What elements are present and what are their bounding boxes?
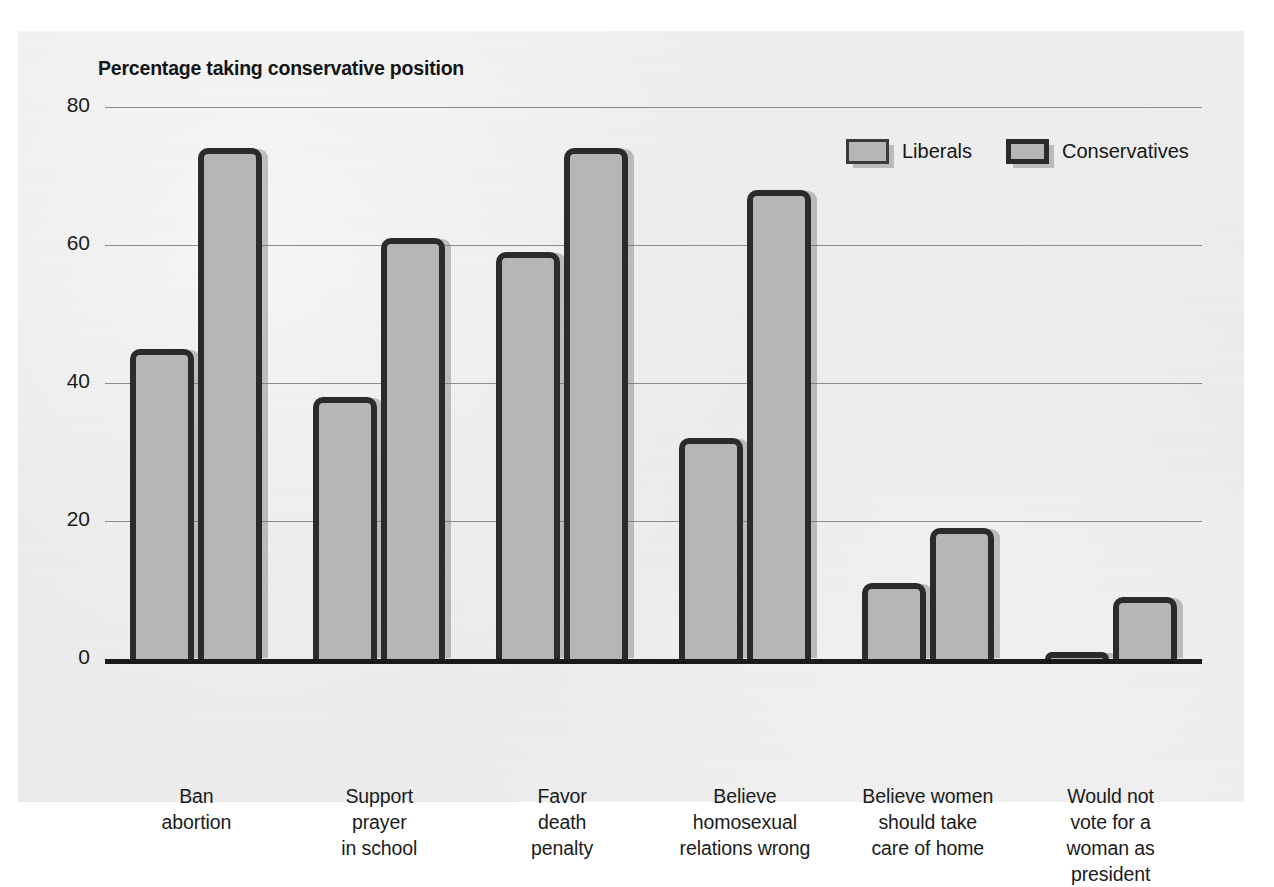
bar-group — [313, 107, 445, 659]
chart-title: Percentage taking conservative position — [98, 57, 464, 80]
x-axis-label: Favordeathpenalty — [457, 783, 668, 861]
x-axis-label-line: Favor — [457, 783, 668, 809]
plot-area: 020406080 BanabortionSupportprayerin sch… — [105, 107, 1202, 659]
bar-liberals[interactable] — [313, 397, 377, 659]
y-tick-label-20: 20 — [30, 507, 90, 531]
x-axis-label-line: Believe women — [822, 783, 1033, 809]
x-axis-label-line: Ban — [91, 783, 302, 809]
bar-group — [130, 107, 262, 659]
x-axis-label-line: prayer — [274, 809, 485, 835]
x-axis-label-line: Support — [274, 783, 485, 809]
bar-liberals[interactable] — [1045, 652, 1109, 659]
x-axis-label: Supportprayerin school — [274, 783, 485, 861]
bar-group — [679, 107, 811, 659]
bar-group — [862, 107, 994, 659]
bar-conservatives[interactable] — [930, 528, 994, 659]
x-axis-label-line: homosexual — [640, 809, 851, 835]
x-axis-label-line: Would not — [1005, 783, 1216, 809]
x-axis-label-line: should take — [822, 809, 1033, 835]
bar-conservatives[interactable] — [564, 148, 628, 659]
bar-liberals[interactable] — [679, 438, 743, 659]
x-axis-label-line: relations wrong — [640, 835, 851, 861]
gridline-40 — [105, 383, 1202, 384]
gridline-60 — [105, 245, 1202, 246]
x-axis-label: Believe womenshould takecare of home — [822, 783, 1033, 861]
x-axis-label-line: vote for a — [1005, 809, 1216, 835]
x-axis-label-line: care of home — [822, 835, 1033, 861]
x-axis-label-line: penalty — [457, 835, 668, 861]
bar-conservatives[interactable] — [198, 148, 262, 659]
x-axis-label-line: in school — [274, 835, 485, 861]
x-axis-label-line: woman as — [1005, 835, 1216, 861]
bar-conservatives[interactable] — [381, 238, 445, 659]
x-axis-label-line: president — [1005, 861, 1216, 887]
x-axis-label: Banabortion — [91, 783, 302, 835]
gridline-20 — [105, 521, 1202, 522]
bar-liberals[interactable] — [130, 349, 194, 660]
x-axis-label: Would notvote for awoman aspresident — [1005, 783, 1216, 887]
x-axis-line — [105, 659, 1202, 664]
x-axis-label-line: Believe — [640, 783, 851, 809]
x-axis-label-line: abortion — [91, 809, 302, 835]
bar-liberals[interactable] — [496, 252, 560, 659]
x-axis-label: Believehomosexualrelations wrong — [640, 783, 851, 861]
y-tick-label-0: 0 — [30, 645, 90, 669]
bar-conservatives[interactable] — [1113, 597, 1177, 659]
y-tick-label-40: 40 — [30, 369, 90, 393]
bar-group — [1045, 107, 1177, 659]
x-axis-label-line: death — [457, 809, 668, 835]
bar-conservatives[interactable] — [747, 190, 811, 659]
gridline-80 — [105, 107, 1202, 108]
bar-group — [496, 107, 628, 659]
y-tick-label-80: 80 — [30, 93, 90, 117]
y-tick-label-60: 60 — [30, 231, 90, 255]
bar-liberals[interactable] — [862, 583, 926, 659]
